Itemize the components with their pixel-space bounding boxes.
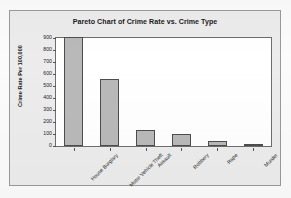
x-axis-tick-mark (217, 148, 218, 151)
x-axis-tick-mark (146, 148, 147, 151)
x-axis-category-label: Motor Vehicle Theft (128, 152, 164, 188)
x-axis-tick-mark (181, 148, 182, 151)
y-axis-tick-mark (53, 38, 56, 39)
y-axis-tick-mark (53, 146, 56, 147)
y-axis-tick-mark (53, 86, 56, 87)
y-axis-tick-mark (53, 62, 56, 63)
y-axis-tick-mark (53, 122, 56, 123)
plot-area: 9008007006005004003002001000 House Burgl… (55, 37, 272, 147)
y-axis-tick-label: 0 (49, 142, 52, 148)
x-axis-category-label: Murder (263, 152, 279, 168)
y-axis-tick-label: 700 (43, 58, 52, 64)
bar (208, 141, 227, 146)
y-axis-tick-label: 100 (43, 130, 52, 136)
x-axis-category-label: Rape (226, 152, 239, 165)
chart-frame: Pareto Chart of Crime Rate vs. Crime Typ… (9, 10, 281, 186)
chart-title: Pareto Chart of Crime Rate vs. Crime Typ… (10, 18, 280, 26)
scanned-page: Pareto Chart of Crime Rate vs. Crime Typ… (0, 0, 291, 198)
x-axis-tick-mark (110, 148, 111, 151)
bar (172, 134, 191, 146)
y-axis-tick-mark (53, 98, 56, 99)
bar (64, 37, 83, 146)
x-axis-tick-mark (253, 148, 254, 151)
y-axis-tick-label: 600 (43, 70, 52, 76)
y-axis-tick-label: 300 (43, 106, 52, 112)
y-axis-tick-label: 200 (43, 118, 52, 124)
y-axis-tick-mark (53, 74, 56, 75)
bar (136, 130, 155, 146)
y-axis-tick-mark (53, 50, 56, 51)
y-axis-tick-mark (53, 134, 56, 135)
x-axis-tick-mark (74, 148, 75, 151)
bar (244, 144, 263, 146)
x-axis-category-label: Robbery (192, 152, 210, 170)
y-axis-tick-label: 900 (43, 34, 52, 40)
y-axis-tick-label: 400 (43, 94, 52, 100)
y-axis-tick-label: 800 (43, 46, 52, 52)
y-axis-title: Crime Rate Per 100,000 (17, 41, 23, 111)
y-axis-tick-label: 500 (43, 82, 52, 88)
bar (100, 79, 119, 146)
x-axis-category-label: House Burglary (89, 152, 119, 182)
plot-inner (56, 38, 271, 146)
y-axis-tick-mark (53, 110, 56, 111)
